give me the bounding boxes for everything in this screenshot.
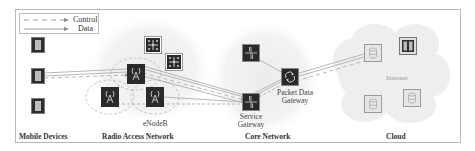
- database-icon: [364, 95, 382, 113]
- legend-data-label: Data: [78, 24, 93, 34]
- legend-data: Data: [23, 25, 98, 34]
- service-gateway-label: Service Gateway: [236, 113, 266, 129]
- solid-arrow-icon: [23, 25, 71, 33]
- section-label-radio-access-network: Radio Access Network: [102, 132, 174, 141]
- router-cross-icon: [242, 44, 260, 62]
- cell-tower-icon: [146, 87, 164, 107]
- network-hub-icon: [165, 53, 183, 71]
- database-icon: [403, 89, 421, 107]
- router-cross-icon: [242, 93, 260, 111]
- internet-label: Internet: [386, 74, 408, 82]
- cell-tower-icon: [101, 87, 119, 107]
- smartphone-icon: [31, 68, 45, 84]
- legend: Control Data: [19, 13, 99, 34]
- network-hub-icon: [144, 36, 162, 54]
- gateway-cycle-icon: [281, 68, 299, 86]
- section-label-core-network: Core Network: [245, 132, 290, 141]
- section-label-mobile-devices: Mobile Devices: [19, 132, 68, 141]
- cell-tower-icon: [127, 64, 145, 84]
- section-label-cloud: Cloud: [386, 132, 406, 141]
- dashed-arrow-icon: [23, 16, 71, 24]
- server-rack-icon: [399, 37, 417, 55]
- pdn-gateway-label-line2: Gateway: [276, 97, 314, 105]
- database-icon: [364, 44, 382, 62]
- service-gateway-label-line2: Gateway: [236, 121, 266, 129]
- lte-architecture-diagram: Control Data: [0, 0, 475, 151]
- pdn-gateway-label: Packet Data Gateway: [276, 89, 314, 105]
- enodeb-label: eNodeB: [143, 120, 168, 128]
- smartphone-icon: [31, 37, 45, 53]
- smartphone-icon: [31, 98, 45, 114]
